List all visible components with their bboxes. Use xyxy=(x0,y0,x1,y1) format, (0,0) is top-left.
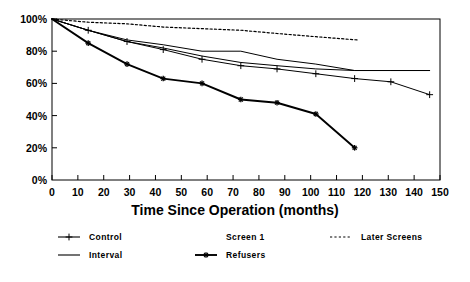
x-tick-label: 70 xyxy=(227,186,239,198)
legend-label: Later Screens xyxy=(361,232,422,242)
x-tick-label: 80 xyxy=(253,186,265,198)
data-series-group xyxy=(52,19,433,151)
legend-entry-refusers[interactable]: Refusers xyxy=(195,250,266,260)
x-axis-title: Time Since Operation (months) xyxy=(131,202,338,218)
series-later-screens xyxy=(52,19,357,40)
x-tick-label: 90 xyxy=(279,186,291,198)
x-tick-label: 150 xyxy=(431,186,449,198)
legend-entry-interval[interactable]: Interval xyxy=(58,250,122,260)
x-tick-label: 0 xyxy=(49,186,55,198)
y-tick-label: 0% xyxy=(32,174,48,186)
x-tick-label: 140 xyxy=(405,186,423,198)
y-tick-label: 100% xyxy=(20,13,48,25)
x-tick-label: 60 xyxy=(201,186,213,198)
x-tick-label: 10 xyxy=(72,186,84,198)
legend-label: Screen 1 xyxy=(226,232,265,242)
y-tick-label: 40% xyxy=(26,110,48,122)
y-tick-label: 80% xyxy=(26,45,48,57)
legend-entry-screen-1[interactable]: Screen 1 xyxy=(226,232,265,242)
legend-entry-control[interactable]: Control xyxy=(58,232,122,242)
x-tick-label: 50 xyxy=(175,186,187,198)
series-line xyxy=(52,19,430,71)
x-tick-label: 100 xyxy=(302,186,320,198)
chart-legend: ControlScreen 1Later ScreensIntervalRefu… xyxy=(58,232,422,260)
x-tick-label: 120 xyxy=(354,186,372,198)
legend-entry-later-screens[interactable]: Later Screens xyxy=(330,232,422,242)
x-tick-label: 40 xyxy=(150,186,162,198)
legend-label: Control xyxy=(89,232,122,242)
y-tick-label: 60% xyxy=(26,77,48,89)
chart-figure: 0102030405060708090100110120130140150 0%… xyxy=(0,0,470,282)
x-tick-label: 110 xyxy=(328,186,345,198)
y-axis-tick-labels: 0%20%40%60%80%100% xyxy=(20,13,48,186)
series-line xyxy=(52,19,357,40)
series-refusers xyxy=(52,19,357,151)
legend-label: Refusers xyxy=(226,250,266,260)
legend-label: Interval xyxy=(89,250,122,260)
y-tick-label: 20% xyxy=(26,142,48,154)
x-axis-tick-labels: 0102030405060708090100110120130140150 xyxy=(49,186,449,198)
x-tick-label: 130 xyxy=(380,186,398,198)
x-tick-label: 20 xyxy=(98,186,110,198)
survival-curve-chart: 0102030405060708090100110120130140150 0%… xyxy=(0,0,470,282)
x-axis-ticks xyxy=(52,175,440,180)
x-tick-label: 30 xyxy=(124,186,136,198)
y-axis-ticks xyxy=(52,19,57,148)
series-interval xyxy=(52,19,430,71)
